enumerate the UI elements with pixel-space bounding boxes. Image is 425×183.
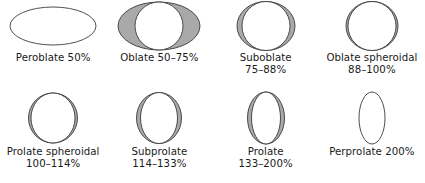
caption-line-2: 114–133% (106, 158, 212, 170)
shape-graphic-oblate-spheroidal (319, 0, 425, 52)
suboblate-icon (216, 0, 316, 54)
caption-oblate-spheroidal: Oblate spheroidal 88–100% (319, 52, 425, 77)
caption-line-2: 100–114% (0, 158, 106, 170)
shape-graphic-suboblate (213, 0, 319, 52)
suboblate-main-ellipse (242, 2, 290, 51)
peroblate-main-ellipse (10, 7, 96, 45)
shape-graphic-prolate (213, 90, 319, 146)
caption-line-1: Prolate (213, 146, 319, 158)
perprolate-main-ellipse (359, 92, 385, 144)
peroblate-icon (3, 0, 103, 54)
shape-cell-subprolate: Subprolate 114–133% (106, 90, 212, 183)
oblate-spheroidal-main-ellipse (348, 2, 396, 51)
shape-cell-peroblate: Peroblate 50% (0, 0, 106, 90)
subprolate-main-ellipse (141, 93, 178, 144)
caption-line-2: 88–100% (319, 64, 425, 76)
caption-subprolate: Subprolate 114–133% (106, 146, 212, 171)
shape-cell-suboblate: Suboblate 75–88% (213, 0, 319, 90)
shape-cell-prolate: Prolate 133–200% (213, 90, 319, 183)
shape-row-top: Peroblate 50% Oblate 50–75% (0, 0, 425, 90)
shape-cell-oblate: Oblate 50–75% (106, 0, 212, 90)
shape-classification-figure: Peroblate 50% Oblate 50–75% (0, 0, 425, 183)
oblate-main-ellipse (135, 2, 183, 50)
caption-prolate: Prolate 133–200% (213, 146, 319, 171)
prolate-spheroidal-icon (3, 89, 103, 147)
oblate-icon (109, 0, 209, 54)
caption-line-2: 133–200% (213, 158, 319, 170)
subprolate-icon (109, 89, 209, 147)
shape-graphic-perprolate (319, 90, 425, 146)
shape-cell-oblate-spheroidal: Oblate spheroidal 88–100% (319, 0, 425, 90)
shape-row-bottom: Prolate spheroidal 100–114% Subprolate 1… (0, 90, 425, 183)
shape-graphic-prolate-spheroidal (0, 90, 106, 146)
prolate-main-ellipse (251, 92, 280, 144)
shape-graphic-oblate (106, 0, 212, 52)
caption-line-1: Perprolate 200% (319, 146, 425, 158)
shape-cell-prolate-spheroidal: Prolate spheroidal 100–114% (0, 90, 106, 183)
caption-line-2: 75–88% (213, 64, 319, 76)
prolate-spheroidal-main-ellipse (31, 93, 75, 143)
perprolate-icon (322, 89, 422, 147)
caption-line-1: Subprolate (106, 146, 212, 158)
shape-graphic-subprolate (106, 90, 212, 146)
caption-line-1: Prolate spheroidal (0, 146, 106, 158)
prolate-icon (216, 89, 316, 147)
shape-graphic-peroblate (0, 0, 106, 52)
caption-perprolate: Perprolate 200% (319, 146, 425, 158)
shape-cell-perprolate: Perprolate 200% (319, 90, 425, 183)
caption-suboblate: Suboblate 75–88% (213, 52, 319, 77)
caption-prolate-spheroidal: Prolate spheroidal 100–114% (0, 146, 106, 171)
oblate-spheroidal-icon (322, 0, 422, 54)
